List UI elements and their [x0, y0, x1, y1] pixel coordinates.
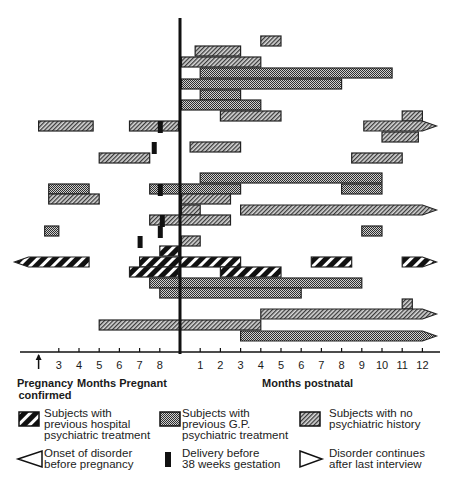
timeline-row [261, 309, 437, 319]
timeline-row [200, 68, 392, 78]
bar-gp [150, 184, 241, 194]
bar-gp [182, 79, 342, 89]
tick-label: 9 [359, 359, 365, 371]
arrow-up-icon [36, 354, 42, 360]
legend-gp-text: Subjects withprevious G.P.psychiatric tr… [182, 408, 288, 441]
bar-none [182, 194, 231, 204]
bar-hosp [160, 246, 179, 256]
bar-none [49, 194, 99, 204]
bar-none [39, 121, 94, 131]
onset-triangle-icon [18, 451, 42, 467]
bar-hosp [130, 267, 179, 277]
timeline-row [382, 132, 418, 142]
bar-gp [200, 173, 382, 183]
bar-gp [45, 226, 59, 236]
bar-none-continues [261, 309, 437, 319]
bar-none-continues [364, 121, 437, 131]
timeline-row [182, 79, 342, 89]
bar-gp [182, 100, 261, 110]
bar-gp [200, 90, 240, 100]
timeline-row [200, 173, 382, 183]
continues-triangle-icon [300, 451, 322, 467]
confirmed-line-2: confirmed [16, 389, 74, 401]
preterm-marker [158, 184, 163, 196]
timeline-row [160, 246, 179, 256]
bar-gp [200, 68, 392, 78]
timeline-row [15, 257, 437, 267]
tick-label: 6 [298, 359, 304, 371]
timeline-row [195, 46, 240, 56]
timeline-row [241, 331, 437, 341]
tick-label: 1 [197, 359, 203, 371]
bar-none [261, 36, 281, 46]
pregnancy-confirmed-label: Pregnancy confirmed [16, 377, 74, 401]
tick-label: 5 [278, 359, 284, 371]
legend-hosp-text: Subjects withprevious hospitalpsychiatri… [44, 408, 150, 441]
bar-none [195, 46, 240, 56]
tick-label: 2 [217, 359, 223, 371]
legend-none-text: Subjects with nopsychiatric history [329, 408, 420, 430]
timeline-row [150, 215, 231, 227]
bar-hosp [311, 257, 351, 267]
bars-layer [15, 36, 437, 341]
timeline-row [220, 111, 422, 121]
preterm-marker [158, 121, 163, 133]
timeline-row [152, 142, 241, 154]
x-axis-title-pregnant: Months Pregnant [77, 377, 167, 389]
tick-label: 6 [116, 359, 122, 371]
bar-none [352, 153, 403, 163]
bar-none [182, 57, 261, 67]
legend-none: Subjects with nopsychiatric history [329, 408, 420, 430]
x-axis: 345678123456789101112 [20, 348, 440, 371]
bar-none [402, 299, 412, 309]
tick-label: 11 [396, 359, 407, 371]
bar-none [220, 111, 281, 121]
timeline-row [45, 226, 382, 238]
legend-swatch-hosp [19, 412, 39, 426]
tick-label: 10 [376, 359, 388, 371]
bar-hosp [220, 267, 281, 277]
tick-label: 7 [137, 359, 143, 371]
legend-continues-text: Disorder continuesafter last interview [329, 448, 425, 470]
tick-label: 3 [56, 359, 62, 371]
tick-label: 5 [96, 359, 102, 371]
legend-preterm: Delivery before38 weeks gestation [182, 448, 280, 470]
tick-label: 7 [318, 359, 324, 371]
tick-label: 3 [238, 359, 244, 371]
bar-none [182, 236, 201, 246]
timeline-row [39, 121, 437, 133]
legend-continues: Disorder continuesafter last interview [329, 448, 425, 470]
bar-hosp [140, 257, 241, 267]
bar-none-continues [241, 205, 437, 215]
preterm-marker [138, 236, 143, 248]
bar-gp [150, 278, 362, 288]
timeline-row [261, 36, 281, 46]
bar-none [182, 205, 201, 215]
legend-preterm-text: Delivery before38 weeks gestation [182, 448, 280, 470]
timeline-row [182, 205, 437, 215]
legend-onset: Onset of disorderbefore pregnancy [44, 448, 134, 470]
preterm-marker [152, 142, 157, 154]
timeline-row [200, 90, 240, 100]
bar-gp [49, 184, 89, 194]
timeline-row [99, 153, 402, 163]
timeline-row [402, 299, 412, 309]
bar-none [130, 121, 179, 131]
legend-swatch-gp [160, 412, 180, 426]
preterm-marker [158, 226, 163, 238]
legend-onset-text: Onset of disorderbefore pregnancy [44, 448, 134, 470]
bar-hosp-onset-before [15, 257, 90, 267]
legend-gp: Subjects withprevious G.P.psychiatric tr… [182, 408, 288, 441]
timeline-row [130, 267, 282, 277]
timeline-row [182, 100, 261, 110]
tick-label: 4 [76, 359, 82, 371]
timeline-row [49, 194, 231, 204]
bar-none [99, 153, 150, 163]
tick-label: 12 [416, 359, 428, 371]
confirmed-line-1: Pregnancy [16, 377, 74, 389]
bar-hosp-continues [402, 257, 436, 267]
legend-swatch-none [300, 412, 320, 426]
bar-gp-continues [241, 331, 437, 341]
tick-label: 4 [258, 359, 264, 371]
x-axis-title-postnatal: Months postnatal [262, 377, 353, 389]
